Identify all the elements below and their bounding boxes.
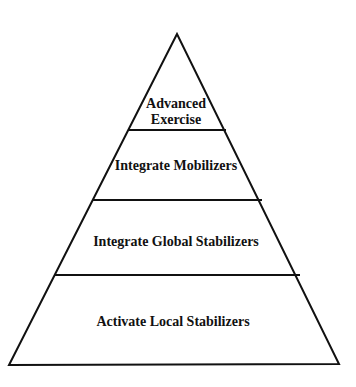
level-label-integrate-mobilizers: Integrate Mobilizers xyxy=(115,158,238,173)
level-label-advanced-exercise-line-2: Exercise xyxy=(151,112,201,127)
level-label-advanced-exercise-line-1: Advanced xyxy=(146,96,206,111)
level-label-integrate-global-stabilizers: Integrate Global Stabilizers xyxy=(93,234,259,249)
pyramid-diagram: Advanced Exercise Integrate Mobilizers I… xyxy=(0,0,356,387)
level-label-activate-local-stabilizers: Activate Local Stabilizers xyxy=(96,314,250,329)
